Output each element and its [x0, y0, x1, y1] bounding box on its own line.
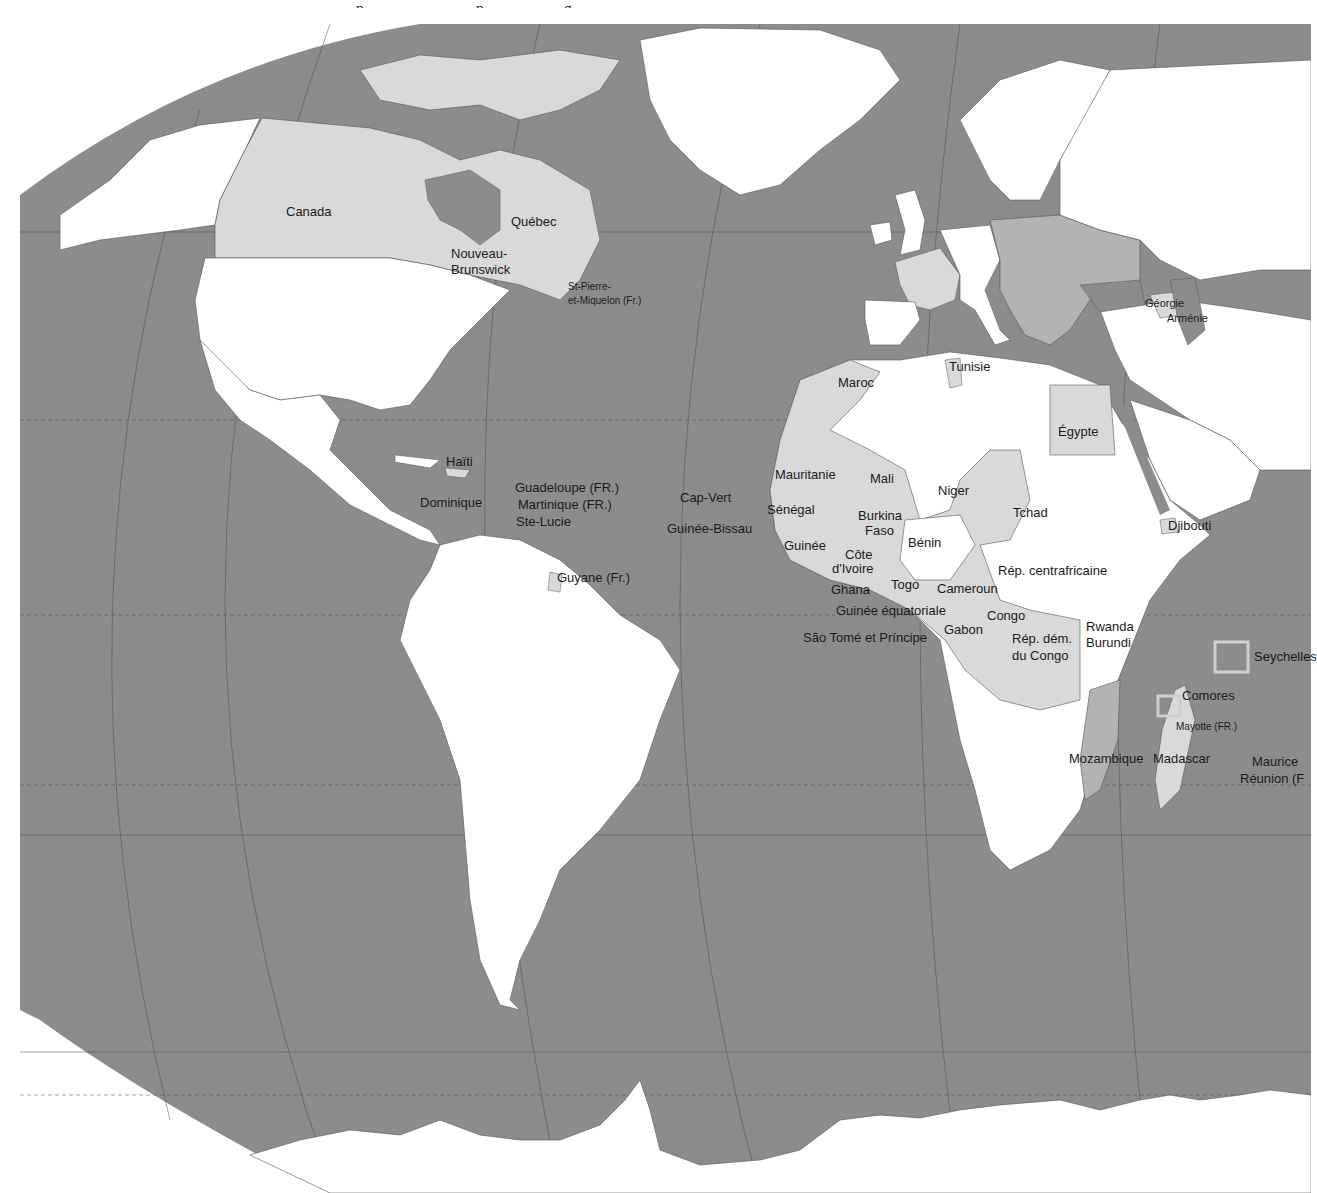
label-haiti: Haïti [446, 455, 473, 469]
label-quebec: Québec [511, 215, 557, 229]
label-reunion: Réunion (F [1240, 772, 1304, 786]
label-nouveau-brunswick-2: Brunswick [451, 263, 510, 277]
label-comores: Comores [1182, 689, 1235, 703]
label-rwanda: Rwanda [1086, 620, 1134, 634]
label-benin: Bénin [908, 536, 941, 550]
label-mauritanie: Mauritanie [775, 468, 836, 482]
label-congo: Congo [987, 609, 1025, 623]
label-rdc-2: du Congo [1012, 649, 1068, 663]
label-guadeloupe: Guadeloupe (FR.) [515, 481, 619, 495]
label-ghana: Ghana [831, 583, 870, 597]
label-egypte: Égypte [1058, 425, 1098, 439]
label-ste-lucie: Ste-Lucie [516, 515, 571, 529]
label-maurice: Maurice [1252, 755, 1298, 769]
label-tunisie: Tunisie [949, 360, 990, 374]
label-rdc-1: Rép. dém. [1012, 632, 1072, 646]
label-st-pierre-1: St-Pierre- [568, 281, 611, 292]
label-mali: Mali [870, 472, 894, 486]
label-gabon: Gabon [944, 623, 983, 637]
label-armenie: Arménie [1167, 313, 1208, 324]
label-tchad: Tchad [1013, 506, 1048, 520]
label-cote-1: Côte [845, 548, 872, 562]
label-rep-centrafricaine: Rép. centrafricaine [998, 564, 1107, 578]
label-guyane: Guyane (Fr.) [557, 571, 630, 585]
label-djibouti: Djibouti [1168, 519, 1211, 533]
label-georgie: Géorgie [1145, 298, 1184, 309]
label-canada: Canada [286, 205, 332, 219]
label-senegal: Sénégal [767, 503, 815, 517]
label-cote-2: d'Ivoire [832, 562, 874, 576]
label-burkina-1: Burkina [858, 509, 902, 523]
label-dominique: Dominique [420, 496, 482, 510]
label-burkina-2: Faso [865, 524, 894, 538]
label-nouveau-brunswick-1: Nouveau- [451, 247, 507, 261]
label-maroc: Maroc [838, 376, 874, 390]
egypte-shape [1050, 385, 1115, 455]
label-cameroun: Cameroun [937, 582, 998, 596]
label-st-pierre-2: et-Miquelon (Fr.) [568, 295, 641, 306]
label-niger: Niger [938, 484, 969, 498]
label-sao-tome: São Tomé et Príncipe [803, 631, 927, 645]
label-guinee-equatoriale: Guinée équatoriale [836, 604, 946, 618]
label-guinee: Guinée [784, 539, 826, 553]
label-guinee-bissau: Guinée-Bissau [667, 522, 752, 536]
label-mayotte: Mayotte (FR.) [1176, 721, 1237, 732]
label-mozambique: Mozambique [1069, 752, 1143, 766]
label-madagascar: Madascar [1153, 752, 1210, 766]
label-martinique: Martinique (FR.) [518, 498, 612, 512]
label-burundi: Burundi [1086, 636, 1131, 650]
label-togo: Togo [891, 578, 919, 592]
label-cap-vert: Cap-Vert [680, 491, 731, 505]
label-seychelles: Seychelles [1254, 650, 1317, 664]
